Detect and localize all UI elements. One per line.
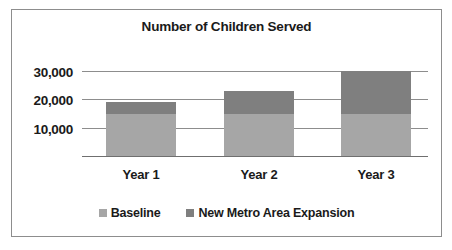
legend-item-new-metro-area-expansion[interactable]: New Metro Area Expansion <box>186 206 354 220</box>
y-tick-label-20000: 20,000 <box>34 93 74 108</box>
bar-segment-expansion-year-1[interactable] <box>106 102 176 113</box>
x-axis-label-year-3: Year 3 <box>341 167 411 182</box>
bar-series-container <box>82 71 428 156</box>
y-tick-label-30000: 30,000 <box>34 65 74 80</box>
bar-segment-expansion-year-2[interactable] <box>224 91 294 114</box>
chart-title: Number of Children Served <box>12 19 441 34</box>
chart-frame: Number of Children Served 30,000 20,000 … <box>11 9 442 237</box>
bar-segment-baseline-year-1[interactable] <box>106 114 176 157</box>
x-axis-label-year-2: Year 2 <box>224 167 294 182</box>
bar-group-year-2[interactable] <box>224 91 294 156</box>
legend-label-baseline: Baseline <box>111 206 161 220</box>
chart-screenshot: Number of Children Served 30,000 20,000 … <box>0 0 452 250</box>
x-axis-label-year-1: Year 1 <box>106 167 176 182</box>
legend-swatch-expansion-icon <box>186 209 194 217</box>
bar-group-year-3[interactable] <box>341 71 411 156</box>
x-axis-labels: Year 1 Year 2 Year 3 <box>82 167 428 187</box>
chart-legend: Baseline New Metro Area Expansion <box>12 206 441 220</box>
x-axis-line <box>82 156 428 157</box>
bar-segment-baseline-year-3[interactable] <box>341 114 411 157</box>
bar-segment-baseline-year-2[interactable] <box>224 114 294 157</box>
bar-segment-expansion-year-3[interactable] <box>341 71 411 114</box>
legend-item-baseline[interactable]: Baseline <box>99 206 161 220</box>
legend-label-new-metro-area-expansion: New Metro Area Expansion <box>198 206 354 220</box>
legend-swatch-baseline-icon <box>99 209 107 217</box>
plot-area: 30,000 20,000 10,000 <box>82 71 428 156</box>
bar-group-year-1[interactable] <box>106 102 176 156</box>
y-tick-label-10000: 10,000 <box>34 121 74 136</box>
